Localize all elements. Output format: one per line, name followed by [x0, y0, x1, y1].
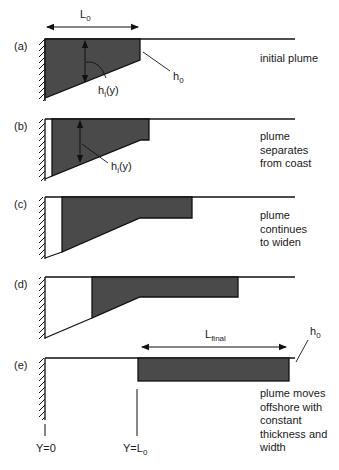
- panel-b: [39, 119, 295, 181]
- caption-a: initial plume: [260, 52, 318, 66]
- plume: [92, 277, 238, 318]
- y0-label: Y=0: [36, 442, 56, 455]
- panel-d: [39, 277, 295, 339]
- hi-label-b: hi(y): [111, 160, 132, 177]
- caption-e: plume moves offshore with constant thick…: [260, 387, 327, 455]
- panel-a: [39, 27, 295, 101]
- caption-c: plume continues to widen: [260, 209, 307, 250]
- panel-label-e: (e): [14, 359, 27, 372]
- panel-label-d: (d): [14, 278, 27, 291]
- coast-hatch: [39, 39, 45, 101]
- h0-label-a: h0: [173, 70, 184, 87]
- L0-label: L0: [80, 8, 91, 25]
- hi-label-a: hi(y): [98, 84, 119, 101]
- yL0-label: Y=L0: [123, 442, 147, 459]
- plume: [62, 197, 192, 252]
- panel-label-c: (c): [14, 198, 27, 211]
- plume: [52, 119, 149, 176]
- Lfinal-label: Lfinal: [205, 328, 226, 345]
- panel-label-a: (a): [14, 40, 27, 53]
- plume: [45, 39, 140, 98]
- caption-b: plume separates from coast: [260, 130, 311, 171]
- panel-c: [39, 197, 295, 259]
- plume: [138, 358, 289, 381]
- panel-label-b: (b): [14, 120, 27, 133]
- h0-leader: [143, 52, 170, 71]
- h0-leader: [296, 340, 308, 362]
- h0-label-e: h0: [310, 325, 321, 342]
